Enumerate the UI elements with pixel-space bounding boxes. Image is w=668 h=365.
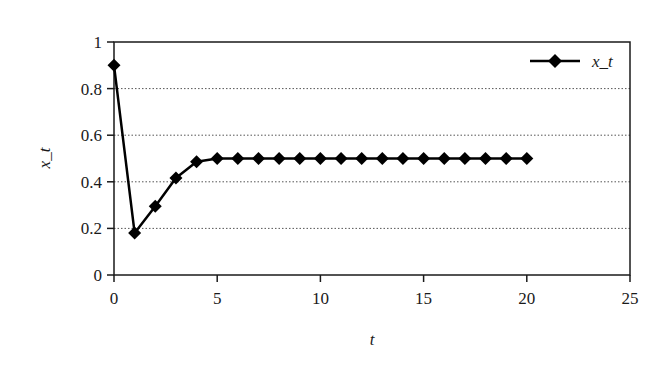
x-tick-label: 10 [312, 289, 329, 308]
diamond-marker-icon [500, 152, 513, 165]
x-axis-ticks: 0510152025 [110, 275, 639, 308]
diamond-marker-icon [211, 152, 224, 165]
diamond-marker-icon [231, 152, 244, 165]
series-line [114, 65, 527, 233]
diamond-marker-icon [335, 152, 348, 165]
y-axis-title: x_t [35, 146, 54, 169]
x-tick-label: 0 [110, 289, 119, 308]
x-tick-label: 25 [622, 289, 639, 308]
diamond-marker-icon [438, 152, 451, 165]
x-axis-title: t [370, 330, 376, 349]
y-tick-label: 0 [94, 266, 103, 285]
y-tick-label: 1 [94, 33, 103, 52]
diamond-marker-icon [479, 152, 492, 165]
x-tick-label: 20 [518, 289, 535, 308]
diamond-marker-icon [396, 152, 409, 165]
data-series [108, 59, 534, 240]
y-tick-label: 0.4 [81, 173, 103, 192]
y-tick-label: 0.2 [81, 219, 102, 238]
x-tick-label: 15 [415, 289, 432, 308]
diamond-marker-icon [293, 152, 306, 165]
diamond-marker-icon [520, 152, 533, 165]
legend-label: x_t [591, 52, 614, 71]
legend-diamond-marker-icon [548, 54, 562, 68]
x-tick-label: 5 [213, 289, 222, 308]
diamond-marker-icon [458, 152, 471, 165]
y-tick-label: 0.8 [81, 80, 102, 99]
y-tick-label: 0.6 [81, 126, 102, 145]
diamond-marker-icon [355, 152, 368, 165]
diamond-marker-icon [108, 59, 121, 72]
line-chart: 0510152025 00.20.40.60.81 t x_t x_t [0, 0, 668, 365]
y-axis-ticks: 00.20.40.60.81 [81, 33, 114, 285]
diamond-marker-icon [417, 152, 430, 165]
legend: x_t [530, 52, 614, 71]
diamond-marker-icon [376, 152, 389, 165]
diamond-marker-icon [252, 152, 265, 165]
diamond-marker-icon [314, 152, 327, 165]
diamond-marker-icon [273, 152, 286, 165]
